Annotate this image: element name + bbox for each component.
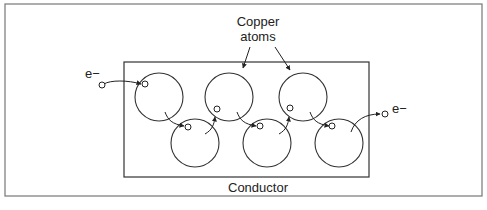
atom-circle-6	[315, 119, 363, 167]
electron-out-label: e−	[392, 101, 407, 116]
atom-circle-3	[205, 73, 253, 121]
conductor-label: Conductor	[228, 180, 289, 195]
electron-path	[104, 81, 380, 134]
atom-circle-2	[171, 119, 219, 167]
atom-circle-4	[243, 119, 291, 167]
atoms-label: atoms	[240, 29, 276, 44]
electron-in-label: e−	[85, 66, 100, 81]
atom-circle-1	[135, 73, 183, 121]
copper-label: Copper	[237, 14, 280, 29]
atom-circle-5	[279, 73, 327, 121]
copper-conductor-diagram: Copper atoms Conductor e− e−	[0, 0, 487, 210]
electron-dots	[99, 81, 388, 130]
callout-arrows	[243, 47, 290, 70]
